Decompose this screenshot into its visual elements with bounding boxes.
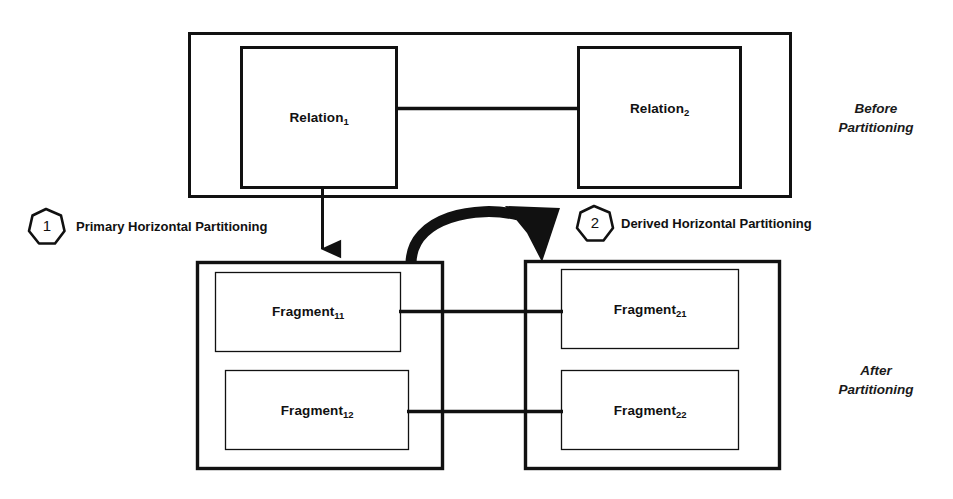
step-1-label: Primary Horizontal Partitioning bbox=[76, 219, 267, 234]
step-1-number: 1 bbox=[30, 217, 64, 234]
fragment-21-label: Fragment21 bbox=[561, 302, 739, 317]
fragment-22-label: Fragment22 bbox=[561, 403, 739, 418]
derived-partitioning-arrowhead bbox=[505, 206, 560, 262]
relation-2-label: Relation2 bbox=[578, 101, 741, 116]
step-2-label: Derived Horizontal Partitioning bbox=[621, 216, 812, 231]
step-2-number: 2 bbox=[578, 214, 612, 231]
derived-partitioning-arc-arrow bbox=[411, 212, 518, 264]
relation-2-box bbox=[579, 48, 741, 188]
fragment-11-label: Fragment11 bbox=[215, 304, 401, 319]
diagram-canvas: Relation1 Relation2 Fragment11 Fragment1… bbox=[0, 0, 953, 499]
relation-1-label: Relation1 bbox=[241, 110, 397, 125]
fragment-12-label: Fragment12 bbox=[225, 403, 409, 418]
after-partitioning-note: After Partitioning bbox=[806, 361, 946, 399]
before-partitioning-note: Before Partitioning bbox=[806, 99, 946, 137]
diagram-vector-layer bbox=[0, 0, 953, 499]
